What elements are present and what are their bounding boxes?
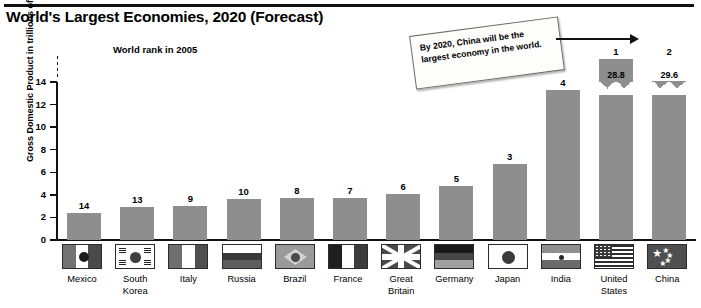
bar[interactable] bbox=[386, 194, 420, 240]
y-tick-14 bbox=[50, 81, 57, 83]
bars-plot-area: 141391087653428.8129.62 bbox=[58, 50, 696, 240]
y-tick-6 bbox=[50, 172, 57, 174]
y-tick-label-12: 12 bbox=[20, 99, 46, 110]
country-label-brazil: Brazil bbox=[266, 274, 324, 286]
y-tick-label-4: 4 bbox=[20, 189, 46, 200]
axis-break-zigzag bbox=[652, 82, 686, 95]
bar-rank-label: 2 bbox=[643, 46, 695, 57]
bar-rank-label: 1 bbox=[590, 46, 642, 57]
flag-cell-italy bbox=[162, 244, 214, 270]
bar-group-brazil[interactable]: 8 bbox=[271, 50, 323, 240]
country-label-mexico: Mexico bbox=[53, 274, 111, 286]
axis-break-zigzag bbox=[599, 82, 633, 95]
bar-rank-label: 4 bbox=[537, 77, 589, 88]
country-label-line1: China bbox=[638, 274, 696, 286]
flag-cell-brazil bbox=[269, 244, 321, 270]
country-label-line2: Korea bbox=[106, 286, 164, 298]
bar[interactable] bbox=[493, 164, 527, 240]
country-label-line1: Japan bbox=[479, 274, 537, 286]
country-label-line1: Great bbox=[372, 274, 430, 286]
flag-japan-icon bbox=[488, 244, 528, 269]
y-tick-label-8: 8 bbox=[20, 144, 46, 155]
country-label-line1: United bbox=[585, 274, 643, 286]
bar-value-label: 28.8 bbox=[599, 70, 633, 80]
flag-cell-russia bbox=[216, 244, 268, 270]
bar-group-russia[interactable]: 10 bbox=[218, 50, 270, 240]
bar-value-label: 29.6 bbox=[652, 70, 686, 80]
y-tick-4 bbox=[50, 194, 57, 196]
bar-group-mexico[interactable]: 14 bbox=[58, 50, 110, 240]
bar-group-united-states[interactable]: 28.81 bbox=[590, 50, 642, 240]
bar-group-china[interactable]: 29.62 bbox=[643, 50, 695, 240]
callout-arrow-line bbox=[556, 38, 633, 40]
country-label-great: GreatBritain bbox=[372, 274, 430, 297]
country-label-south: SouthKorea bbox=[106, 274, 164, 297]
country-label-india: India bbox=[532, 274, 590, 286]
flag-cell-south bbox=[109, 244, 161, 270]
bar[interactable] bbox=[120, 207, 154, 240]
flag-south-korea-icon bbox=[115, 244, 155, 269]
bar-rank-label: 5 bbox=[430, 173, 482, 184]
y-tick-label-6: 6 bbox=[20, 166, 46, 177]
flag-cell-united bbox=[588, 244, 640, 270]
country-label-line2: Britain bbox=[372, 286, 430, 298]
country-label-line1: Russia bbox=[213, 274, 271, 286]
flag-row: ★★★★★ bbox=[56, 241, 696, 271]
country-label-line1: Mexico bbox=[53, 274, 111, 286]
bar[interactable] bbox=[439, 186, 473, 240]
flag-cell-japan bbox=[482, 244, 534, 270]
flag-cell-germany bbox=[428, 244, 480, 270]
flag-italy-icon bbox=[168, 244, 208, 269]
bar-rank-label: 9 bbox=[164, 193, 216, 204]
bar-rank-label: 8 bbox=[271, 185, 323, 196]
country-label-russia: Russia bbox=[213, 274, 271, 286]
flag-mexico-icon bbox=[62, 244, 102, 269]
y-tick-label-0: 0 bbox=[20, 234, 46, 245]
bar[interactable] bbox=[67, 213, 101, 240]
flag-united-states-icon bbox=[594, 244, 634, 269]
page-title: World's Largest Economies, 2020 (Forecas… bbox=[6, 8, 323, 26]
country-label-line1: India bbox=[532, 274, 590, 286]
country-label-row: MexicoSouthKoreaItalyRussiaBrazilFranceG… bbox=[56, 274, 696, 308]
country-label-line1: France bbox=[319, 274, 377, 286]
country-label-line1: Germany bbox=[425, 274, 483, 286]
chart-page: World's Largest Economies, 2020 (Forecas… bbox=[0, 0, 701, 308]
y-tick-12 bbox=[50, 104, 57, 106]
bar-group-south-korea[interactable]: 13 bbox=[111, 50, 163, 240]
country-label-line1: Italy bbox=[159, 274, 217, 286]
flag-great-britain-icon bbox=[381, 244, 421, 269]
country-label-germany: Germany bbox=[425, 274, 483, 286]
y-tick-8 bbox=[50, 149, 57, 151]
bar[interactable] bbox=[546, 90, 580, 240]
bar-rank-label: 10 bbox=[218, 186, 270, 197]
bar-rank-label: 3 bbox=[484, 151, 536, 162]
y-tick-label-10: 10 bbox=[20, 121, 46, 132]
country-label-italy: Italy bbox=[159, 274, 217, 286]
header-rule bbox=[4, 4, 694, 7]
bar-rank-label: 7 bbox=[324, 185, 376, 196]
y-tick-10 bbox=[50, 126, 57, 128]
bar[interactable] bbox=[227, 199, 261, 240]
y-tick-2 bbox=[50, 217, 57, 219]
country-label-france: France bbox=[319, 274, 377, 286]
bar[interactable] bbox=[173, 206, 207, 240]
bar-rank-label: 13 bbox=[111, 194, 163, 205]
bar-group-italy[interactable]: 9 bbox=[164, 50, 216, 240]
flag-cell-india bbox=[535, 244, 587, 270]
bar-group-france[interactable]: 7 bbox=[324, 50, 376, 240]
country-label-line1: Brazil bbox=[266, 274, 324, 286]
bar[interactable] bbox=[280, 198, 314, 240]
flag-cell-great bbox=[375, 244, 427, 270]
flag-india-icon bbox=[541, 244, 581, 269]
callout-arrow-head bbox=[630, 34, 639, 44]
country-label-line1: South bbox=[106, 274, 164, 286]
bar-group-india[interactable]: 4 bbox=[537, 50, 589, 240]
bar-rank-label: 14 bbox=[58, 200, 110, 211]
bar-rank-label: 6 bbox=[377, 181, 429, 192]
country-label-united: UnitedStates bbox=[585, 274, 643, 297]
flag-france-icon bbox=[328, 244, 368, 269]
y-tick-label-2: 2 bbox=[20, 211, 46, 222]
bar[interactable] bbox=[333, 198, 367, 240]
y-tick-label-14: 14 bbox=[20, 76, 46, 87]
country-label-japan: Japan bbox=[479, 274, 537, 286]
